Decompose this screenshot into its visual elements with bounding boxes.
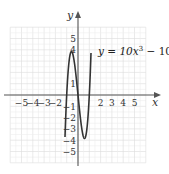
y-tick-label: 5: [70, 34, 76, 44]
y-tick-label: 1: [70, 79, 76, 89]
axes: [4, 11, 161, 166]
y-tick-label: −4: [63, 136, 77, 146]
y-axis-arrow-icon: [75, 11, 81, 18]
equation-lhs: y = 10x: [97, 45, 139, 57]
x-tick-label: −2: [49, 98, 62, 108]
equation-rhs: − 10x: [143, 45, 169, 57]
y-axis-label: y: [66, 9, 74, 22]
y-tick-label: −2: [63, 113, 76, 123]
y-tick-label: −1: [63, 102, 76, 112]
equation-label: y = 10x3 − 10x: [97, 45, 169, 57]
function-graph: −5−4−3−22345 541−1−2−3−4−5 x y y = 10x3 …: [0, 0, 169, 174]
y-tick-label: −5: [63, 147, 77, 157]
x-tick-label: 4: [120, 98, 126, 108]
x-tick-label: 3: [109, 98, 115, 108]
x-tick-label: 2: [98, 98, 104, 108]
x-tick-label: 5: [132, 98, 138, 108]
x-axis-label: x: [152, 96, 159, 109]
